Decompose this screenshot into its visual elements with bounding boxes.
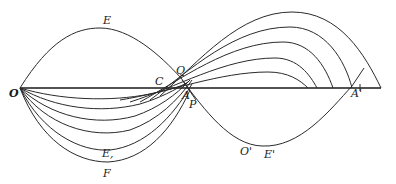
label-E-prime: E' — [264, 149, 275, 160]
label-A-prime: A' — [351, 88, 362, 99]
label-F: F — [103, 168, 111, 179]
label-O-prime: O' — [240, 146, 252, 157]
label-Q: Q — [176, 65, 185, 76]
diagram-figure: O E C Q A P E, F O' E' A' — [0, 0, 396, 184]
label-E-sub: E, — [102, 148, 114, 159]
label-E: E — [103, 15, 111, 26]
label-C: C — [155, 76, 163, 87]
label-P: P — [189, 99, 196, 110]
label-O: O — [9, 88, 19, 99]
curves-canvas — [0, 0, 396, 184]
